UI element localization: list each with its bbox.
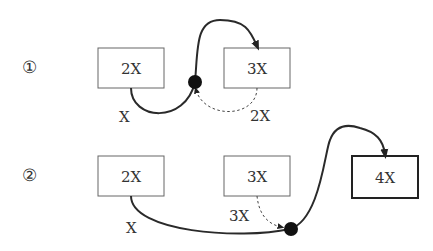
row-2-label-3x: 3X [229, 207, 250, 225]
row-2-box-4x: 4X [352, 156, 418, 198]
row-2-junction-dot [284, 222, 298, 236]
row-2-box-2x: 2X [98, 156, 164, 196]
row-1-box-2x: 2X [98, 48, 164, 88]
row-2-label-x: X [126, 219, 137, 237]
row-1-marker: ① [22, 57, 37, 77]
row-2-dashed-flow [257, 196, 281, 227]
box-label: 2X [121, 60, 142, 78]
diagram-canvas: ① 2X 3X X 2X ② 2X 3X 4X X 3X [0, 0, 433, 251]
row-2-marker: ② [22, 165, 37, 185]
box-label: 3X [247, 60, 268, 78]
box-label: 2X [121, 168, 142, 186]
row-1-dashed-flow [196, 88, 257, 112]
row-1-label-x: X [119, 108, 130, 126]
box-label: 3X [247, 168, 268, 186]
row-1-junction-dot [188, 75, 202, 89]
row-2-box-3x: 3X [224, 156, 290, 196]
row-1-label-2x: 2X [250, 107, 271, 125]
row-1-box-3x: 3X [224, 48, 290, 88]
box-label: 4X [375, 169, 396, 187]
